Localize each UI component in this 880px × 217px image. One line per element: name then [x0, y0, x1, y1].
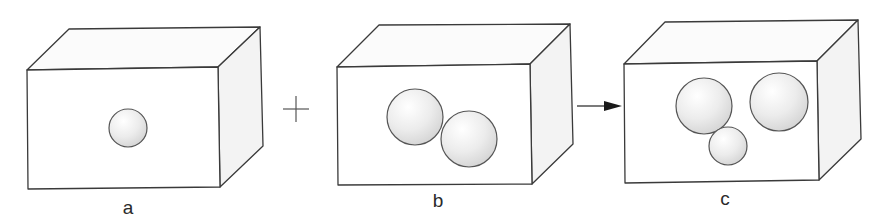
panel-label-b: b [433, 191, 444, 210]
box-b [337, 24, 573, 185]
plus-icon [283, 96, 309, 122]
sphere [750, 73, 808, 131]
sphere [709, 127, 747, 165]
sphere [441, 111, 497, 167]
panel-label-a: a [123, 198, 134, 217]
sphere [109, 109, 147, 147]
sphere [676, 78, 732, 134]
arrow-right-icon [577, 101, 622, 111]
panels-layer [27, 20, 861, 189]
sphere-merge-diagram [0, 0, 880, 217]
box-a [27, 27, 263, 189]
diagram-stage: a b c [0, 0, 880, 217]
panel-label-c: c [720, 189, 730, 208]
box-c [624, 20, 861, 183]
sphere [387, 89, 443, 145]
